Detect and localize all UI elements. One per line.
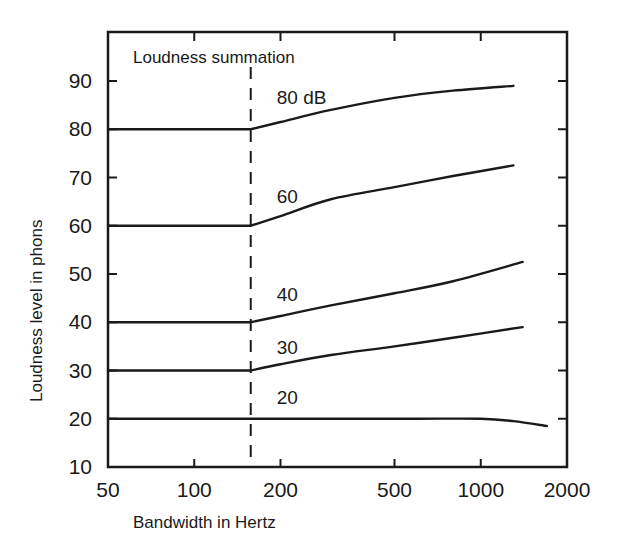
y-tick-label: 50 — [69, 262, 92, 285]
curve-40-db — [108, 262, 523, 322]
x-tick-label: 50 — [96, 478, 119, 501]
y-tick-label: 70 — [69, 166, 92, 189]
curve-label: 30 — [277, 337, 298, 358]
curve-label: 20 — [277, 387, 298, 408]
plot-frame — [108, 32, 567, 467]
curve-20-db — [108, 419, 547, 426]
curve-30-db — [108, 327, 523, 370]
x-tick-label: 500 — [377, 478, 412, 501]
x-tick-label: 2000 — [544, 478, 591, 501]
x-tick-label: 100 — [177, 478, 212, 501]
y-tick-label: 30 — [69, 359, 92, 382]
curve-label: 60 — [277, 186, 298, 207]
curve-label: 80 dB — [277, 87, 327, 108]
x-tick-label: 200 — [263, 478, 298, 501]
y-tick-label: 20 — [69, 407, 92, 430]
chart-title: Loudness summation — [133, 48, 295, 67]
y-tick-label: 60 — [69, 214, 92, 237]
y-tick-label: 90 — [69, 69, 92, 92]
loudness-chart: 102030405060708090 5010020050010002000 8… — [0, 0, 628, 554]
y-tick-label: 40 — [69, 310, 92, 333]
curves: 80 dB60403020 — [108, 86, 547, 426]
curve-label: 40 — [277, 284, 298, 305]
x-tick-label: 1000 — [457, 478, 504, 501]
y-tick-label: 80 — [69, 117, 92, 140]
y-tick-label: 10 — [69, 455, 92, 478]
x-axis-ticks: 5010020050010002000 — [96, 32, 590, 501]
curve-60-db — [108, 165, 513, 225]
x-axis-label: Bandwidth in Hertz — [133, 513, 276, 532]
y-axis-label: Loudness level in phons — [27, 220, 46, 402]
